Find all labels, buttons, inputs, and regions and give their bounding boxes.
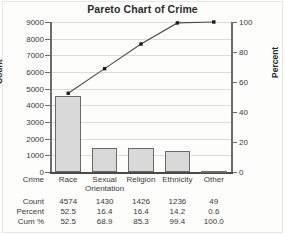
table-cell: 14.2 bbox=[170, 207, 186, 216]
y-tick-label-left: 8000 bbox=[26, 34, 44, 43]
table-cell: 16.4 bbox=[97, 207, 113, 216]
table-cell: 49 bbox=[209, 197, 218, 206]
y-tick-right bbox=[232, 52, 237, 53]
table-header-row: Crime RaceSexualOrientationReligionEthni… bbox=[0, 175, 285, 186]
table-column-header: Sexual bbox=[92, 175, 116, 184]
table-cell: 1426 bbox=[132, 197, 150, 206]
y-tick-label-left: 1000 bbox=[26, 151, 44, 160]
y-tick-label-left: 2000 bbox=[26, 134, 44, 143]
y-tick-right bbox=[232, 142, 237, 143]
table-cell: 52.5 bbox=[60, 207, 76, 216]
table-cell: 100.0 bbox=[204, 217, 224, 226]
table-row-label-crime: Crime bbox=[0, 175, 44, 184]
y-tick-label-left: 7000 bbox=[26, 51, 44, 60]
table-cell: 85.3 bbox=[133, 217, 149, 226]
table-column-header: Race bbox=[59, 175, 78, 184]
chart-title: Pareto Chart of Crime bbox=[0, 3, 285, 15]
table-cell: 99.4 bbox=[170, 217, 186, 226]
table-row-label: Count bbox=[0, 197, 44, 206]
y-tick-label-right: 40 bbox=[239, 108, 248, 117]
table-cell: 1430 bbox=[96, 197, 114, 206]
line-marker bbox=[212, 20, 215, 23]
line-marker bbox=[176, 21, 179, 24]
y-axis-title-count: Count bbox=[0, 59, 4, 84]
y-tick-right bbox=[232, 112, 237, 113]
table-column-header: Religion bbox=[127, 175, 156, 184]
table-cell: 52.5 bbox=[60, 217, 76, 226]
table-cell: 68.9 bbox=[97, 217, 113, 226]
y-tick-label-right: 100 bbox=[239, 18, 252, 27]
chart-page: Pareto Chart of Crime Count Percent 0100… bbox=[0, 0, 285, 235]
table-column-header: Ethnicity bbox=[162, 175, 192, 184]
y-tick-right bbox=[232, 22, 237, 23]
table-column-header: Other bbox=[204, 175, 224, 184]
y-tick-label-left: 6000 bbox=[26, 68, 44, 77]
y-tick-label-right: 80 bbox=[239, 48, 248, 57]
line-marker bbox=[67, 92, 70, 95]
y-tick-label-right: 60 bbox=[239, 78, 248, 87]
y-axis-title-percent: Percent bbox=[270, 47, 280, 78]
table-row-label: Cum % bbox=[0, 217, 44, 226]
y-tick-label-left: 3000 bbox=[26, 118, 44, 127]
line-marker bbox=[103, 67, 106, 70]
y-tick-label-right: 20 bbox=[239, 138, 248, 147]
line-marker bbox=[139, 42, 142, 45]
table-row-label: Percent bbox=[0, 207, 44, 216]
table-column-header-line2: Orientation bbox=[85, 184, 124, 193]
table-cell: 0.6 bbox=[208, 207, 219, 216]
y-tick-label-left: 4000 bbox=[26, 101, 44, 110]
y-tick-label-left: 5000 bbox=[26, 84, 44, 93]
table-cell: 4574 bbox=[59, 197, 77, 206]
y-tick-right bbox=[232, 82, 237, 83]
table-row: Cum %52.568.985.399.4100.0 bbox=[0, 217, 285, 228]
cumulative-percent-line bbox=[50, 22, 232, 172]
table-cell: 1236 bbox=[168, 197, 186, 206]
y-tick-label-left: 9000 bbox=[26, 18, 44, 27]
table-cell: 16.4 bbox=[133, 207, 149, 216]
